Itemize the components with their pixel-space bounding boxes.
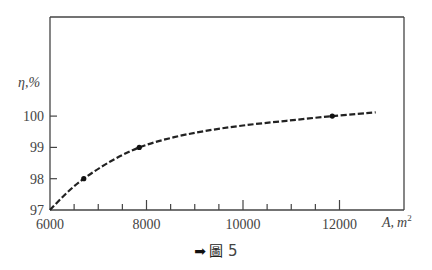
y-axis-label: η,% [18,75,40,90]
data-point-marker [81,176,86,181]
data-point-marker [330,114,335,119]
y-tick-label: 98 [30,172,44,187]
x-axis-label: A,m2 [381,213,412,230]
efficiency-curve [50,112,376,210]
chart: 979899100600080001000012000 η,% A,m2 [0,0,432,270]
tick-labels: 979899100600080001000012000 [23,109,357,232]
y-tick-label: 99 [30,140,44,155]
figure-number: 5 [228,242,238,260]
x-tick-label: 12000 [322,217,357,232]
y-ticks [50,116,57,179]
data-point-marker [137,145,142,150]
x-tick-label: 10000 [226,217,261,232]
data-markers [81,114,335,182]
x-tick-label: 6000 [36,217,64,232]
arrow-right-icon: ➡ [194,243,206,259]
figure-caption: ➡圖5 [0,240,432,260]
x-ticks [74,200,339,210]
x-tick-label: 8000 [133,217,161,232]
y-tick-label: 100 [23,109,44,124]
y-tick-label: 97 [30,203,44,218]
figure-label: 圖 [209,243,223,259]
